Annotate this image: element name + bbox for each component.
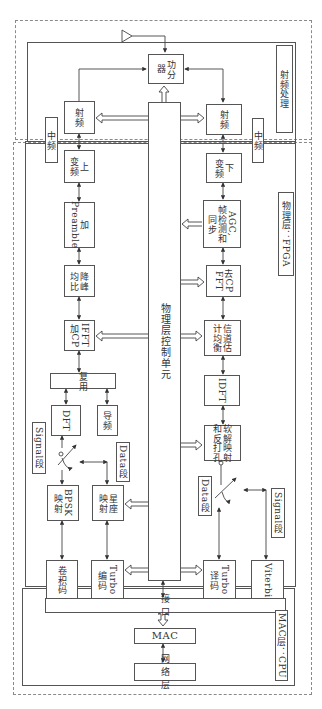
ctrl-to-fft xyxy=(180,277,204,287)
mac-region-label: MAC层：CPU xyxy=(275,610,288,681)
network-text: 网 络 层 xyxy=(160,654,170,689)
preamble-text: 加 Preamble xyxy=(70,201,90,249)
signal-label-text: Signal段 xyxy=(273,492,283,533)
if-tx-label: 中频 xyxy=(45,117,58,163)
conv-code-text: 卷积码 xyxy=(57,566,67,595)
soft-demap-block: 软解映射 和反打孔 xyxy=(204,425,241,461)
conv-code-block: 卷积码 xyxy=(46,560,78,600)
mac-block: MAC xyxy=(134,628,196,644)
pilot-text: 导频 xyxy=(103,411,113,430)
power-splitter-block: 功分 器 xyxy=(148,54,184,84)
turbo-enc-block: Turbo 编码 xyxy=(91,560,124,600)
chan-est-block: 信道估 计均衡 xyxy=(204,320,241,356)
tx-signal-label: Signal段 xyxy=(32,422,46,474)
turbo-dec-block: Turbo 译码 xyxy=(203,560,236,600)
ctrl-to-ifft xyxy=(96,331,148,341)
agc-block: AGC, 帧检测和 同步 xyxy=(203,200,241,248)
ctrl-to-splitter xyxy=(159,86,169,102)
rf-tx-block: 射频 xyxy=(64,101,95,134)
ifft-block: IFFT 加CP xyxy=(64,320,95,351)
constellation-text: 星座 映射 xyxy=(98,494,118,513)
label-text: MAC层：CPU xyxy=(277,613,287,678)
data-label-text: Data段 xyxy=(200,479,210,512)
if-rx-label: 中频 xyxy=(252,118,264,163)
mac-text: MAC xyxy=(152,631,179,641)
constellation-block: 星座 映射 xyxy=(92,485,124,521)
signal-label-text: Signal段 xyxy=(34,427,44,468)
ctrl-to-rf-tx xyxy=(96,113,148,123)
power-splitter-label: 功分 器 xyxy=(156,60,176,79)
rx-signal-label: Signal段 xyxy=(271,488,285,538)
rf-region-label: 射频处理 xyxy=(276,45,293,133)
bpsk-text: BPSK 映射 xyxy=(53,489,73,517)
upconvert-text: 上 变频 xyxy=(70,157,90,176)
chan-est-text: 信道估 计均衡 xyxy=(213,324,233,353)
splitter-to-rf-rx xyxy=(185,69,223,102)
mux-block: 复用 xyxy=(50,373,116,389)
turbo-enc-text: Turbo 编码 xyxy=(98,565,118,595)
rf-tx-to-splitter xyxy=(79,69,146,101)
ctrl-to-turbo-enc xyxy=(125,565,148,575)
network-layer-block: 网 络 层 xyxy=(134,663,196,681)
agc-to-ctrl xyxy=(182,219,202,229)
rx-data-label: Data段 xyxy=(198,476,212,516)
ctrl-to-constellation xyxy=(125,499,148,509)
papr-text: 降峰 均比 xyxy=(70,272,90,291)
if-tx-text: 中频 xyxy=(47,131,57,150)
rf-region-text: 射频处理 xyxy=(280,70,290,108)
viterbi-text: Viterbi xyxy=(263,563,273,598)
fft-block: 去CP FFT xyxy=(206,265,241,297)
agc-text: AGC, 帧检测和 同步 xyxy=(207,205,237,243)
upconvert-block: 上 变频 xyxy=(64,150,95,183)
ctrl-to-soft-demap xyxy=(180,440,202,450)
ctrl-to-rf-rx xyxy=(180,113,204,123)
idft-text: IDFT xyxy=(217,378,227,403)
phy-region-label: 物理层：FPGA xyxy=(278,192,294,276)
viterbi-block: Viterbi xyxy=(251,560,284,600)
rf-rx-label: 射频 xyxy=(219,110,229,129)
phy-control-label: 物理层控制单元 xyxy=(160,303,170,380)
idft-block: IDFT xyxy=(204,375,240,406)
antenna-to-splitter xyxy=(132,36,165,52)
pilot-block: 导频 xyxy=(97,405,118,436)
fft-text: 去CP FFT xyxy=(214,269,234,292)
preamble-block: 加 Preamble xyxy=(64,202,95,248)
antenna-icon xyxy=(122,30,132,42)
label-text: 物理层：FPGA xyxy=(281,201,291,267)
interface-text: 接 口 xyxy=(161,594,171,616)
rf-rx-block: 射频 xyxy=(206,104,242,135)
tx-data-label: Data段 xyxy=(116,442,130,482)
bpsk-block: BPSK 映射 xyxy=(47,485,79,521)
downconvert-text: 下 变频 xyxy=(214,159,234,178)
data-label-text: Data段 xyxy=(118,445,128,478)
dft-block: DFT xyxy=(51,405,81,436)
downconvert-block: 下 变频 xyxy=(206,153,242,183)
rf-tx-label: 射频 xyxy=(75,108,85,127)
turbo-dec-text: Turbo 译码 xyxy=(210,565,230,595)
interface-bar: 接 口 xyxy=(45,598,286,613)
soft-demap-text: 软解映射 和反打孔 xyxy=(213,424,233,462)
if-rx-text: 中频 xyxy=(253,131,263,150)
ctrl-to-turbo-dec xyxy=(180,565,202,575)
ifft-text: IFFT 加CP xyxy=(70,323,90,347)
papr-block: 降峰 均比 xyxy=(64,265,95,297)
ctrl-to-chan-est xyxy=(180,331,202,341)
mux-text: 复用 xyxy=(78,372,88,391)
phy-control-unit: 物理层控制单元 xyxy=(148,102,181,581)
dft-text: DFT xyxy=(61,410,71,431)
